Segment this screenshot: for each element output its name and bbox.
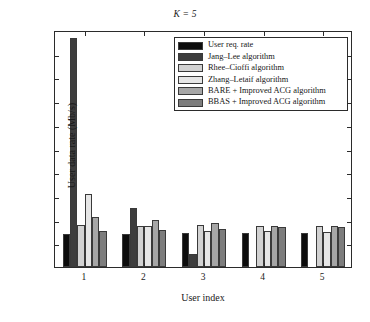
bar bbox=[189, 254, 196, 267]
legend-label: User req. rate bbox=[208, 41, 253, 49]
x-tick-mark bbox=[85, 32, 86, 36]
x-tick-mark bbox=[264, 32, 265, 36]
legend-item: Zhang–Letaif algorithm bbox=[178, 74, 344, 85]
x-tick-label: 1 bbox=[64, 272, 104, 282]
legend-swatch-icon bbox=[178, 53, 203, 61]
figure-canvas: K = 5 User data rate (Mb/s) 012345678910… bbox=[0, 0, 370, 322]
x-tick-mark bbox=[204, 32, 205, 36]
legend-label: BBAS + Improved ACG algorithm bbox=[208, 98, 325, 106]
y-tick-mark bbox=[55, 198, 59, 199]
bar bbox=[182, 233, 189, 267]
legend-item: Rhee–Cioffi algorithm bbox=[178, 63, 344, 74]
bar-group bbox=[122, 32, 166, 267]
legend-item: BARE + Improved ACG algorithm bbox=[178, 86, 344, 97]
legend-label: Zhang–Letaif algorithm bbox=[208, 76, 288, 84]
bar bbox=[323, 232, 330, 267]
bar bbox=[197, 225, 204, 267]
y-tick-mark bbox=[55, 151, 59, 152]
y-axis-label: User data rate (Mb/s) bbox=[66, 66, 77, 226]
bar bbox=[271, 226, 278, 267]
bar bbox=[301, 233, 308, 267]
x-tick-mark bbox=[144, 32, 145, 36]
x-tick-label: 5 bbox=[302, 272, 342, 282]
x-tick-mark bbox=[85, 263, 86, 267]
bar bbox=[242, 233, 249, 267]
x-tick-mark bbox=[323, 263, 324, 267]
x-tick-mark bbox=[144, 263, 145, 267]
y-tick-mark bbox=[55, 56, 59, 57]
y-tick-mark bbox=[55, 245, 59, 246]
x-axis-label: User index bbox=[54, 292, 352, 303]
page-bottom-edge bbox=[0, 314, 370, 322]
y-tick-mark bbox=[347, 151, 351, 152]
bar bbox=[99, 231, 106, 267]
y-tick-mark bbox=[55, 103, 59, 104]
y-tick-mark bbox=[55, 127, 59, 128]
x-tick-label: 3 bbox=[183, 272, 223, 282]
x-tick-label: 4 bbox=[243, 272, 283, 282]
legend-item: BBAS + Improved ACG algorithm bbox=[178, 97, 344, 108]
x-tick-mark bbox=[323, 32, 324, 36]
bar bbox=[316, 226, 323, 267]
x-tick-mark bbox=[264, 263, 265, 267]
legend-item: User req. rate bbox=[178, 40, 344, 51]
bar bbox=[130, 208, 137, 267]
legend-label: Jang–Lee algorithm bbox=[208, 53, 275, 61]
bar bbox=[92, 217, 99, 267]
legend-swatch-icon bbox=[178, 87, 203, 95]
bar bbox=[331, 226, 338, 267]
y-tick-mark bbox=[55, 222, 59, 223]
bar bbox=[152, 220, 159, 267]
bar bbox=[204, 231, 211, 267]
legend-label: Rhee–Cioffi algorithm bbox=[208, 64, 284, 72]
y-tick-mark bbox=[347, 174, 351, 175]
bar bbox=[256, 226, 263, 267]
bar bbox=[219, 229, 226, 267]
legend-swatch-icon bbox=[178, 42, 203, 50]
bar bbox=[122, 234, 129, 267]
bar bbox=[211, 223, 218, 267]
bar bbox=[159, 230, 166, 267]
bar bbox=[264, 231, 271, 267]
bar bbox=[137, 226, 144, 267]
legend-swatch-icon bbox=[178, 76, 203, 84]
x-tick-label: 2 bbox=[123, 272, 163, 282]
y-tick-mark bbox=[347, 127, 351, 128]
legend-label: BARE + Improved ACG algorithm bbox=[208, 87, 326, 95]
y-tick-mark bbox=[55, 79, 59, 80]
legend-swatch-icon bbox=[178, 64, 203, 72]
x-tick-mark bbox=[204, 263, 205, 267]
chart-title-text: K = 5 bbox=[173, 9, 196, 19]
bar bbox=[77, 225, 84, 267]
bar bbox=[338, 227, 345, 267]
y-tick-mark bbox=[347, 198, 351, 199]
bar bbox=[63, 234, 70, 267]
y-tick-mark bbox=[347, 222, 351, 223]
y-tick-mark bbox=[55, 174, 59, 175]
bar bbox=[278, 227, 285, 267]
bar bbox=[85, 194, 92, 267]
legend-swatch-icon bbox=[178, 99, 203, 107]
bar bbox=[144, 226, 151, 267]
legend-item: Jang–Lee algorithm bbox=[178, 51, 344, 62]
y-tick-mark bbox=[347, 245, 351, 246]
chart-legend: User req. rateJang–Lee algorithmRhee–Cio… bbox=[174, 37, 348, 111]
chart-title: K = 5 bbox=[0, 9, 370, 19]
